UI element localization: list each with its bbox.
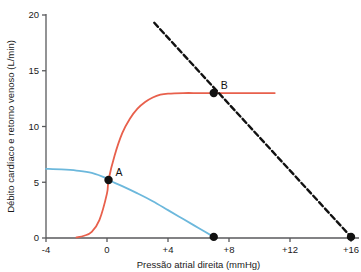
y-tick-label: 10 bbox=[28, 121, 39, 132]
x-axis-title: Pressão atrial direita (mmHg) bbox=[137, 259, 261, 270]
y-tick-label: 15 bbox=[28, 65, 39, 76]
dashed-line-x-intercept-marker bbox=[347, 233, 355, 241]
x-tick-label: +4 bbox=[163, 244, 174, 255]
x-tick-label: +12 bbox=[282, 244, 298, 255]
venous-return-x-intercept-marker bbox=[210, 233, 218, 241]
axes-group bbox=[46, 14, 359, 238]
point-a-marker bbox=[104, 176, 112, 184]
curve-venous-return-curve bbox=[46, 169, 214, 237]
y-tick-label: 0 bbox=[34, 232, 39, 243]
x-tick-label: +16 bbox=[343, 244, 359, 255]
chart-figure: 05101520 -40+4+8+12+16 AB Pressão atrial… bbox=[0, 0, 361, 272]
y-axis-title: Débito cardíaco e retorno venoso (L/min) bbox=[5, 40, 16, 213]
point-b-label: B bbox=[221, 79, 228, 91]
y-tick-label: 5 bbox=[34, 177, 39, 188]
curve-dashed-line bbox=[154, 23, 351, 237]
data-point-annotations: AB bbox=[104, 79, 355, 242]
x-tick-label: 0 bbox=[104, 244, 109, 255]
point-a-label: A bbox=[116, 166, 123, 178]
x-tick-label: +8 bbox=[224, 244, 235, 255]
x-axis-ticks: -40+4+8+12+16 bbox=[42, 238, 359, 255]
x-tick-label: -4 bbox=[42, 244, 50, 255]
curve-cardiac-output-curve bbox=[77, 93, 275, 237]
y-tick-label: 20 bbox=[28, 9, 39, 20]
point-b-marker bbox=[210, 89, 218, 97]
y-axis-ticks: 05101520 bbox=[28, 9, 46, 243]
chart-plot-area: 05101520 -40+4+8+12+16 AB Pressão atrial… bbox=[0, 0, 361, 272]
data-curves bbox=[46, 23, 351, 238]
